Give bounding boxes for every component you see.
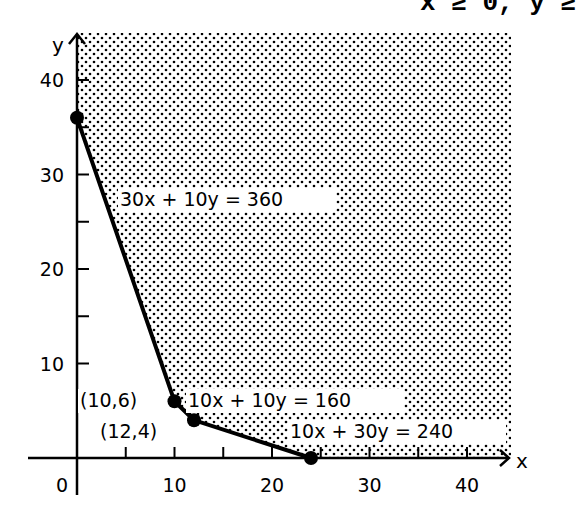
x-tick-label: 40 — [455, 474, 479, 496]
vertex-point — [304, 451, 318, 465]
vertex-label: (10,6) — [80, 389, 137, 411]
vertex-label: (12,4) — [100, 420, 157, 442]
y-tick-label: 40 — [40, 69, 64, 91]
constraint-label: 10x + 10y = 160 — [188, 389, 351, 411]
vertex-point — [70, 111, 84, 125]
x-tick-label: 20 — [260, 474, 284, 496]
x-tick-label: 30 — [357, 474, 381, 496]
vertex-point — [168, 394, 182, 408]
y-tick-label: 30 — [40, 164, 64, 186]
x-axis-label: x — [516, 449, 528, 473]
origin-label: 0 — [56, 474, 68, 496]
y-axis-label: y — [52, 33, 64, 57]
constraint-label: 30x + 10y = 360 — [120, 188, 283, 210]
y-tick-label: 20 — [40, 258, 64, 280]
constraint-label: 10x + 30y = 240 — [290, 420, 453, 442]
y-tick-label: 10 — [40, 353, 64, 375]
vertex-point — [187, 413, 201, 427]
x-tick-label: 10 — [162, 474, 186, 496]
